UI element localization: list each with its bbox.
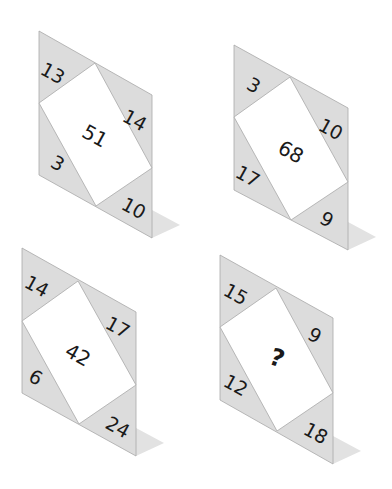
tile-top-right: 3 10 17 9 68 [232,45,376,250]
tile-bottom-left: 14 17 6 24 42 [21,248,164,456]
puzzle-canvas: 13 14 3 10 51 3 10 17 9 68 14 17 6 24 42… [0,0,392,489]
tile-bottom-right: 15 9 12 18 ? [220,255,361,464]
tile-shadow [333,436,361,464]
tile-shadow [136,428,164,456]
tile-top-left: 13 14 3 10 51 [37,31,180,238]
tile-shadow [152,210,180,238]
tile-shadow [348,222,376,250]
